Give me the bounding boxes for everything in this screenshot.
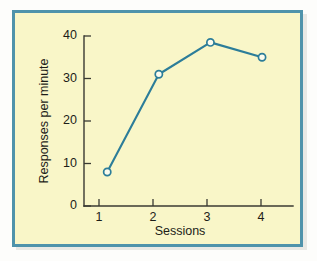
y-tick-label-30: 30: [63, 71, 77, 85]
x-tick-label-group: 1 2 3 4: [96, 210, 265, 224]
x-tick-group: [99, 199, 261, 206]
y-tick-group: [84, 36, 91, 206]
data-point-session-3: [207, 39, 214, 46]
plot-surface: 40 30 20 10 0 1 2 3: [15, 13, 300, 244]
line-chart: 40 30 20 10 0 1 2 3: [15, 13, 306, 250]
y-tick-label-20: 20: [63, 113, 77, 127]
series-line-responses: [107, 42, 262, 172]
data-point-session-1: [104, 168, 111, 175]
x-tick-label-2: 2: [150, 210, 157, 224]
y-axis-title: Responses per minute: [37, 58, 51, 183]
x-axis-title: Sessions: [155, 224, 206, 238]
chart-frame: 40 30 20 10 0 1 2 3: [12, 10, 303, 247]
x-tick-label-4: 4: [258, 210, 265, 224]
data-point-session-2: [155, 71, 162, 78]
y-tick-label-0: 0: [70, 198, 77, 212]
data-point-session-4: [258, 54, 265, 61]
x-tick-label-3: 3: [204, 210, 211, 224]
figure-root: 40 30 20 10 0 1 2 3: [0, 0, 317, 261]
y-tick-label-10: 10: [63, 156, 77, 170]
y-tick-label-40: 40: [63, 28, 77, 42]
y-tick-label-group: 40 30 20 10 0: [63, 28, 77, 212]
x-tick-label-1: 1: [96, 210, 103, 224]
